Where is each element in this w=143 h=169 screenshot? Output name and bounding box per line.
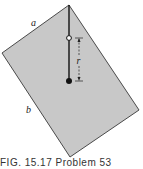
center-of-mass bbox=[66, 78, 72, 84]
pendulum-plate-diagram: a b r bbox=[0, 0, 143, 169]
pivot-point bbox=[67, 36, 72, 41]
label-r: r bbox=[77, 55, 81, 66]
label-a: a bbox=[31, 17, 36, 28]
label-b: b bbox=[26, 104, 31, 115]
figure-caption: FIG. 15.17 Problem 53 bbox=[0, 157, 143, 168]
